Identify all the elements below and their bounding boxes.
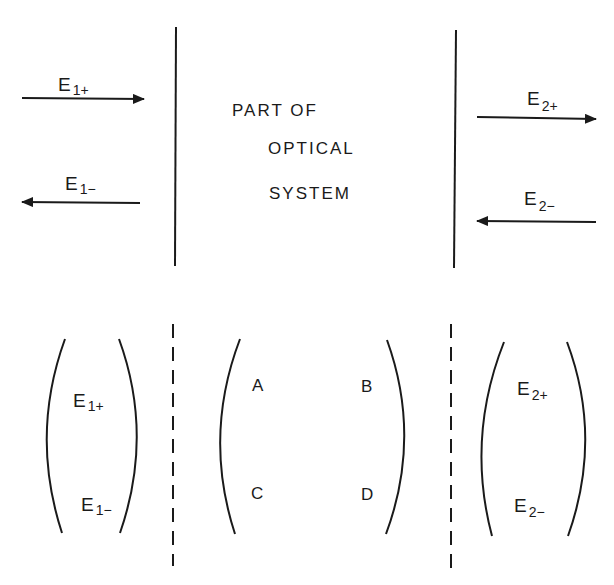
e2-plus-label: E2+ xyxy=(527,88,558,114)
output-left-paren-icon xyxy=(481,342,504,536)
output-e2-minus: E2− xyxy=(514,495,545,520)
e1-minus-label: E1− xyxy=(65,173,96,197)
right-paren-icon xyxy=(119,339,137,533)
transfer-matrix-diagram: PART OF OPTICAL SYSTEM E1+ E1− E2+ E2− E… xyxy=(0,0,614,585)
right-waves: E2+ E2− xyxy=(477,88,596,222)
output-right-paren-icon xyxy=(567,342,585,536)
e1-minus-arrow-icon xyxy=(22,202,140,203)
left-paren-icon xyxy=(47,339,65,533)
e2-plus-arrow-icon xyxy=(477,117,596,119)
e1-plus-arrow-icon xyxy=(22,98,144,99)
system-label-line-1: PART OF xyxy=(232,101,318,120)
matrix-a: A xyxy=(252,376,264,395)
e1-plus-label: E1+ xyxy=(58,74,89,98)
e2-minus-label: E2− xyxy=(524,188,555,214)
transfer-matrix: A B C D xyxy=(220,339,404,534)
left-waves: E1+ E1− xyxy=(22,74,144,203)
system-label-line-3: SYSTEM xyxy=(269,184,351,203)
e2-minus-arrow-icon xyxy=(477,221,596,222)
left-boundary-line xyxy=(175,27,176,266)
matrix-d: D xyxy=(361,485,373,504)
input-vector: E1+ E1− xyxy=(47,339,137,533)
input-e1-minus: E1− xyxy=(81,494,112,518)
matrix-left-paren-icon xyxy=(220,339,240,534)
right-boundary-line xyxy=(454,30,456,268)
input-e1-plus: E1+ xyxy=(73,390,104,414)
output-e2-plus: E2+ xyxy=(517,378,548,403)
matrix-c: C xyxy=(251,484,263,503)
matrix-b: B xyxy=(361,377,372,396)
output-vector: E2+ E2− xyxy=(481,342,585,536)
system-label-line-2: OPTICAL xyxy=(268,139,355,158)
matrix-right-paren-icon xyxy=(386,340,404,534)
optical-system-block: PART OF OPTICAL SYSTEM xyxy=(175,27,456,268)
